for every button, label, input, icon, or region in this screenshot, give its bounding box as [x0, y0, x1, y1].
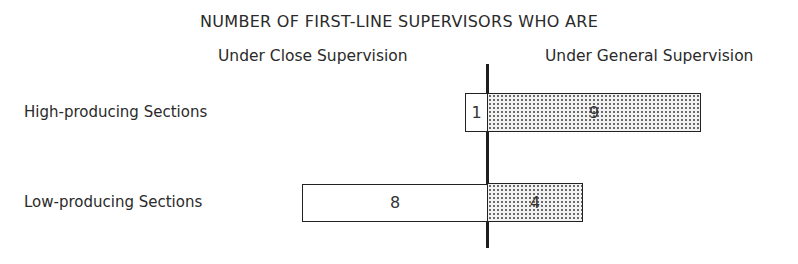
chart-title: NUMBER OF FIRST-LINE SUPERVISORS WHO ARE — [200, 12, 598, 31]
bar-high-close: 1 — [465, 93, 488, 132]
row-label-high: High-producing Sections — [24, 103, 207, 121]
close-supervision-heading: Under Close Supervision — [218, 47, 408, 65]
bar-value: 1 — [471, 105, 481, 121]
bar-high-general: 9 — [487, 93, 701, 132]
bar-low-close: 8 — [302, 184, 488, 222]
row-label-low: Low-producing Sections — [24, 193, 202, 211]
bar-value: 9 — [589, 105, 599, 121]
bar-low-general: 4 — [487, 183, 583, 222]
general-supervision-heading: Under General Supervision — [545, 47, 753, 65]
bar-value: 4 — [530, 195, 540, 211]
bar-value: 8 — [390, 195, 400, 211]
